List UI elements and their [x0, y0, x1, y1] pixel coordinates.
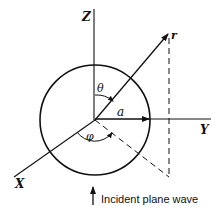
x-axis [14, 120, 95, 177]
y-axis-label: Y [200, 123, 210, 137]
phi-label: φ [86, 130, 94, 143]
x-axis-label: X [14, 177, 25, 191]
radius-label: a [117, 105, 124, 119]
theta-arc [95, 95, 113, 101]
phi-arc [77, 132, 112, 141]
xy-projection-dashed [95, 120, 169, 177]
position-vector-r [95, 34, 168, 120]
z-axis-label: Z [81, 10, 92, 24]
theta-label: θ [97, 82, 104, 95]
r-label: r [171, 29, 178, 42]
incident-wave-caption: Incident plane wave [101, 193, 198, 205]
scattering-diagram: Z Y X a r θ φ Incident plane wave [0, 0, 219, 216]
